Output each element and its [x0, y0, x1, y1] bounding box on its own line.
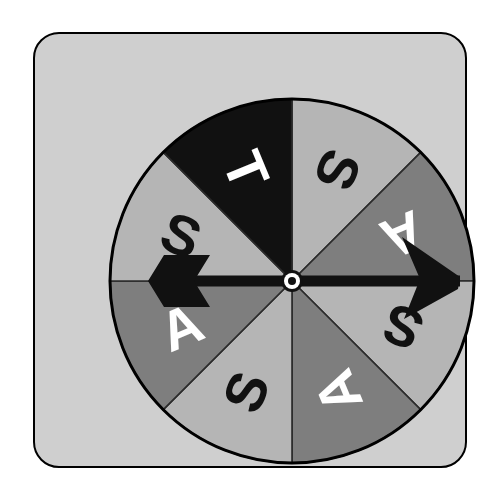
hub-inner: [288, 277, 296, 285]
arrow-shaft: [164, 276, 460, 287]
image-canvas: SASASAST: [0, 0, 502, 502]
wheel-graphic[interactable]: SASASAST: [106, 95, 478, 467]
spinner-wheel[interactable]: SASASAST: [106, 95, 478, 467]
center-hub[interactable]: [281, 270, 303, 292]
rounded-frame-panel: SASASAST: [33, 32, 467, 468]
